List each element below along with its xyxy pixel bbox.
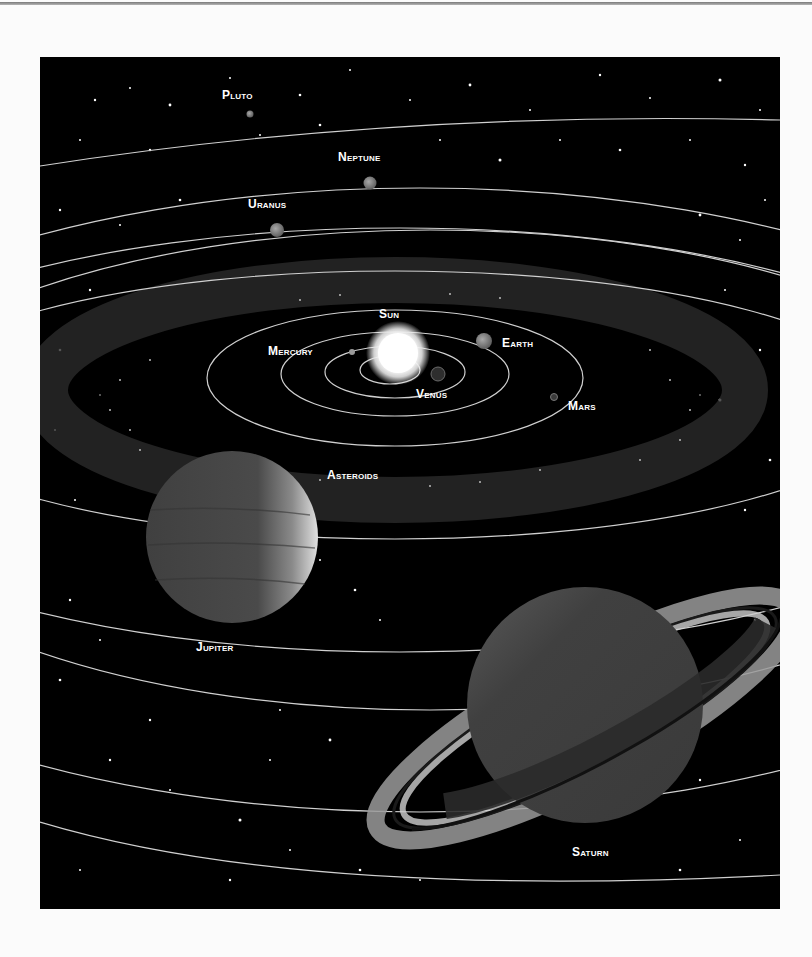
earth-body [476,333,492,349]
label-jupiter: Jupiter [196,640,233,654]
mercury-body [349,349,355,355]
mars-body [551,394,558,401]
jupiter-body [146,451,318,623]
orbit-pluto [40,118,780,166]
label-venus: Venus [416,387,447,401]
uranus-body [270,223,284,237]
pluto-body [247,111,254,118]
label-asteroids: Asteroids [327,468,378,482]
diagram-canvas [40,57,780,909]
label-neptune: Neptune [338,150,381,164]
label-mercury: Mercury [268,344,313,358]
label-pluto: Pluto [222,88,253,102]
top-rule [0,2,812,5]
label-saturn: Saturn [572,845,609,859]
solar-system-diagram: Pluto Neptune Uranus Sun Mercury Earth V… [40,57,780,909]
label-earth: Earth [502,336,533,350]
label-mars: Mars [568,399,596,413]
venus-body [431,367,445,381]
orbit-outer [40,822,780,881]
neptune-body [364,177,377,190]
label-uranus: Uranus [248,197,286,211]
label-sun: Sun [379,307,399,321]
